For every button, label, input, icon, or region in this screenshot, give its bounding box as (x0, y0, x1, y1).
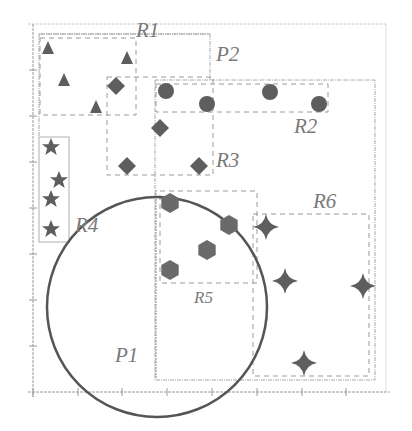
star-icon (50, 171, 68, 188)
circle-points (158, 83, 327, 112)
triangle-icon (90, 100, 102, 113)
label-r6: R6 (312, 189, 337, 213)
label-r3: R3 (215, 148, 239, 172)
label-r4: R4 (74, 213, 99, 237)
star-points (42, 138, 68, 237)
region-r2-box (156, 84, 328, 112)
label-p2: P2 (215, 42, 240, 66)
label-p1: P1 (114, 343, 138, 367)
diamond-points (107, 77, 208, 175)
region-r6-box (253, 214, 369, 376)
star-icon (42, 190, 60, 207)
label-r1: R1 (135, 18, 159, 42)
star-icon (42, 220, 60, 237)
spatial-partition-diagram: R1 P2 R2 R3 R6 R4 R5 P1 (0, 0, 412, 431)
star-icon (42, 138, 60, 155)
region-r1-box (40, 38, 136, 115)
label-r5: R5 (193, 288, 213, 307)
diamond-icon (190, 157, 208, 175)
hexagon-icon (198, 240, 215, 260)
hexagon-icon (161, 260, 178, 280)
circle-dot-icon (311, 96, 327, 112)
diamond-icon (107, 77, 125, 95)
circle-dot-icon (158, 83, 174, 99)
triangle-icon (58, 73, 70, 86)
diamond-icon (118, 157, 136, 175)
triangle-icon (42, 41, 54, 54)
label-r2: R2 (293, 114, 318, 138)
y-axis (29, 24, 37, 397)
sparkle-icon (253, 214, 279, 240)
sparkle-icon (350, 273, 376, 299)
circle-dot-icon (199, 96, 215, 112)
triangle-icon (121, 51, 133, 64)
sparkle-icon (272, 268, 298, 294)
diamond-icon (151, 119, 169, 137)
sparkle-points (253, 214, 376, 376)
circle-dot-icon (262, 84, 278, 100)
sparkle-icon (291, 350, 317, 376)
